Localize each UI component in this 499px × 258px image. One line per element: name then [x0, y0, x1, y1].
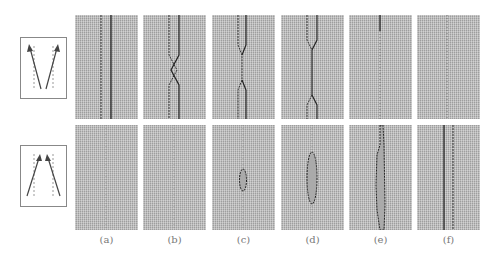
- panel-bottom-e: [349, 125, 412, 230]
- column-label-b: (b): [143, 234, 206, 245]
- column-label-a: (a): [75, 234, 138, 245]
- panel-top-f: [417, 15, 480, 119]
- column-label-e: (e): [349, 234, 412, 245]
- panel-top-d: [281, 15, 344, 119]
- panel-top-c: [212, 15, 275, 119]
- panel-bottom-a: [75, 125, 138, 230]
- converging-arrows-box: [20, 145, 67, 207]
- converging-arrows-icon: [21, 146, 66, 206]
- panel-bottom-b: [143, 125, 206, 230]
- panel-top-e: [349, 15, 412, 119]
- diverging-arrows-icon: [21, 38, 66, 98]
- panel-top-a: [75, 15, 138, 119]
- panel-bottom-f: [417, 125, 480, 230]
- column-label-d: (d): [281, 234, 344, 245]
- panel-bottom-c: [212, 125, 275, 230]
- panel-bottom-d: [281, 125, 344, 230]
- column-label-f: (f): [417, 234, 480, 245]
- diverging-arrows-box: [20, 37, 67, 99]
- panel-top-b: [143, 15, 206, 119]
- column-label-c: (c): [212, 234, 275, 245]
